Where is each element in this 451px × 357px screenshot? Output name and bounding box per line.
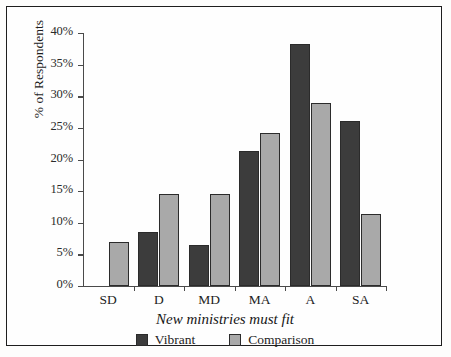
x-axis-category-label: D [134, 292, 185, 308]
y-axis-tick-label: 30% [50, 87, 73, 102]
y-axis-tick-mark [78, 286, 83, 287]
y-axis-tick-label: 15% [50, 182, 73, 197]
legend-swatch-comparison [229, 334, 241, 346]
y-axis-tick-label: 5% [57, 245, 73, 260]
x-axis-category-label: MA [235, 292, 286, 308]
x-axis-category-label: SD [83, 292, 134, 308]
bar-md-vibrant [189, 245, 209, 286]
bar-group [88, 33, 129, 286]
legend-entry-vibrant: Vibrant [136, 332, 195, 348]
x-axis-tick-mark [386, 286, 387, 291]
legend-label: Comparison [248, 332, 314, 348]
bar-group [290, 33, 331, 286]
legend-swatch-vibrant [136, 334, 148, 346]
y-axis-tick-label: 25% [50, 119, 73, 134]
x-axis-tick-mark [134, 286, 135, 291]
x-axis-category-label: MD [184, 292, 235, 308]
legend-entry-comparison: Comparison [229, 332, 314, 348]
bar-a-comparison [311, 103, 331, 286]
bar-d-vibrant [138, 232, 158, 286]
x-axis-title: New ministries must fit [7, 311, 443, 328]
plot-area [83, 33, 386, 286]
x-axis-category-label: A [285, 292, 336, 308]
y-axis-tick-label: 0% [57, 277, 73, 292]
y-axis-tick-label: 20% [50, 151, 73, 166]
chart-border-frame: 0%5%10%15%20%25%30%35%40% SDDMDMAASA % o… [6, 6, 442, 346]
x-axis-tick-mark [285, 286, 286, 291]
x-axis-tick-mark [184, 286, 185, 291]
bar-a-vibrant [290, 44, 310, 286]
bar-ma-comparison [260, 133, 280, 286]
figure-bar-chart: 0%5%10%15%20%25%30%35%40% SDDMDMAASA % o… [0, 0, 451, 357]
bar-d-comparison [159, 194, 179, 286]
bar-ma-vibrant [239, 151, 259, 286]
chart-legend: VibrantComparison [7, 332, 443, 348]
x-axis-tick-mark [336, 286, 337, 291]
bar-sa-comparison [361, 214, 381, 286]
x-axis-category-label: SA [336, 292, 387, 308]
bar-md-comparison [210, 194, 230, 286]
y-axis-title: % of Respondents [31, 0, 47, 169]
y-axis-tick-label: 40% [50, 24, 73, 39]
bar-group [340, 33, 381, 286]
y-axis-tick-label: 35% [50, 56, 73, 71]
bar-group [138, 33, 179, 286]
bar-group [239, 33, 280, 286]
bar-sa-vibrant [340, 121, 360, 286]
bar-sd-comparison [109, 242, 129, 286]
legend-label: Vibrant [155, 332, 195, 348]
bar-group [189, 33, 230, 286]
y-axis-tick-label: 10% [50, 214, 73, 229]
x-axis-tick-mark [235, 286, 236, 291]
